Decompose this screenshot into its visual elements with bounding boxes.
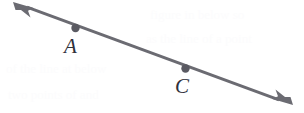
line-diagram-canvas (0, 0, 304, 113)
geometry-line-figure: of the line at below two points of and f… (0, 0, 304, 113)
point-dot-a (71, 24, 79, 32)
point-dot-c (181, 64, 189, 72)
point-label-c: C (175, 76, 189, 97)
point-label-a: A (64, 36, 77, 57)
